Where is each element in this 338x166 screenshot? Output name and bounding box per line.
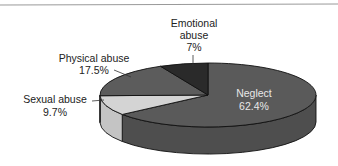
label-physical-line1: Physical abuse bbox=[59, 52, 130, 64]
pie-chart: Emotional abuse 7% Physical abuse 17.5% … bbox=[0, 0, 338, 166]
label-sexual-value: 9.7% bbox=[43, 106, 67, 118]
label-neglect-line1: Neglect bbox=[236, 87, 272, 99]
pie-top bbox=[100, 63, 316, 127]
label-emotional-line2: abuse bbox=[180, 29, 209, 41]
label-physical-value: 17.5% bbox=[79, 64, 109, 76]
label-emotional-value: 7% bbox=[186, 41, 201, 53]
label-sexual-line1: Sexual abuse bbox=[23, 93, 87, 105]
label-neglect-value: 62.4% bbox=[239, 100, 269, 112]
label-emotional-line1: Emotional bbox=[171, 17, 218, 29]
top-rule bbox=[0, 4, 338, 5]
